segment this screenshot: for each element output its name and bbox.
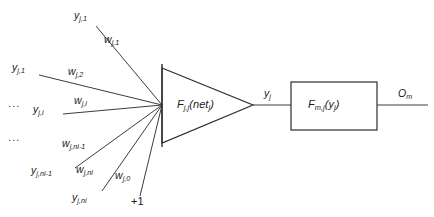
label-internal-signal: yj (264, 88, 271, 99)
neuron-diagram: yj,1 yj,1 yj,i yj,ni-1 yj,ni wj,1 wj,2 w… (0, 0, 434, 217)
ellipsis-lower: ... (8, 132, 20, 143)
label-output-block: Fm,j(yj) (308, 99, 339, 110)
label-weight-ni-1: wj,ni-1 (62, 138, 85, 149)
label-weight-1: wj,1 (104, 34, 119, 45)
label-bias: +1 (131, 196, 144, 207)
label-input-i: yj,i (33, 104, 44, 115)
label-weight-bias: wj,0 (115, 170, 130, 181)
label-input-ni: yj,ni (72, 192, 87, 203)
wire-input-2 (39, 75, 162, 105)
wire-input-i (63, 105, 162, 114)
diagram-wires (0, 0, 434, 217)
label-input-2: yj,1 (12, 62, 25, 73)
wire-input-ni (102, 105, 162, 191)
label-input-1: yj,1 (74, 10, 87, 21)
label-weight-2: wj,2 (68, 66, 83, 77)
ellipsis-upper: ... (8, 98, 20, 109)
label-summation-node: Fj,j(netj) (177, 99, 214, 110)
label-weight-ni: wj,ni (76, 164, 93, 175)
label-input-ni-1: yj,ni-1 (31, 165, 52, 176)
label-output-signal: Om (398, 88, 412, 99)
label-weight-i: wj,i (74, 95, 87, 106)
